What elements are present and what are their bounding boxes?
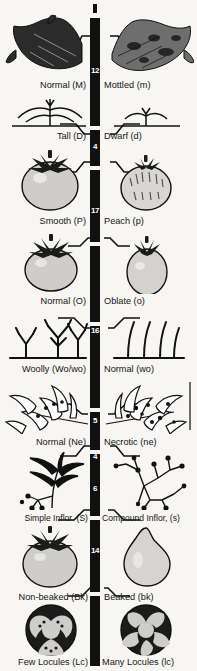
map-distance-6: 6 [90,484,100,493]
chromosome-linkage-map: 12 4 17 16 5 4 6 14 Normal (M) M [0,0,197,671]
row-label-left-1: Tall (D) [0,131,86,141]
map-distance-16: 16 [90,326,100,335]
row-label-left-3: Normal (O) [0,296,86,306]
illustration-leaf-normal [4,12,88,74]
illustration-plant-tall [10,98,88,128]
map-distance-5: 5 [90,416,100,425]
chromosome-segment-4 [90,246,100,322]
illustration-hairy-stems [8,318,88,360]
row-label-left-8: Few Locules (Lc) [0,657,88,667]
illustration-leaf-mottled [108,12,194,74]
row-label-right-3: Oblate (o) [104,296,197,306]
map-distance-4b: 4 [90,452,100,461]
illustration-smooth-stems [112,320,186,360]
illustration-foliage-necrotic [104,378,194,434]
map-distance-14: 14 [90,546,100,555]
row-label-right-5: Necrotic (ne) [104,437,197,447]
map-distance-4a: 4 [90,142,100,151]
row-label-left-0: Normal (M) [0,80,86,90]
row-label-left-2: Smooth (P) [0,216,86,226]
row-label-right-7: Beaked (bk) [104,592,197,602]
illustration-fruit-round [20,234,82,292]
row-label-right-1: Dwarf (d) [104,131,197,141]
illustration-fruit-nonbeaked [18,526,82,588]
chromosome-segment-8 [90,520,100,592]
map-distance-17: 17 [90,206,100,215]
row-label-left-6: Simple Inflor. (S) [0,513,88,523]
illustration-cross-few-locules [20,604,82,656]
row-label-left-7: Non-beaked (Bk) [0,592,88,602]
illustration-fruit-oblate [118,236,176,294]
row-label-right-6: Compound Inflor, (s) [102,513,197,523]
row-label-left-5: Normal (Ne) [0,437,86,447]
row-label-right-2: Peach (p) [104,216,197,226]
chromosome-top-tick [93,4,97,13]
illustration-inflor-compound [104,452,194,510]
map-distance-12: 12 [90,66,100,75]
row-label-right-4: Normal (wo) [104,364,197,374]
illustration-foliage-normal [2,378,90,434]
illustration-fruit-beaked [116,526,178,588]
row-label-left-4: Woolly (Wo/wo) [0,364,86,374]
illustration-fruit-smooth [18,148,82,212]
chromosome-segment-9 [90,596,100,666]
row-label-right-8: Many Locules (lc) [102,657,197,667]
illustration-inflor-simple [8,452,88,510]
illustration-fruit-peach [116,154,176,212]
row-label-right-0: Mottled (m) [104,80,197,90]
illustration-plant-dwarf [112,102,182,128]
illustration-cross-many-locules [114,604,178,656]
chromosome-segment-5 [90,326,100,408]
